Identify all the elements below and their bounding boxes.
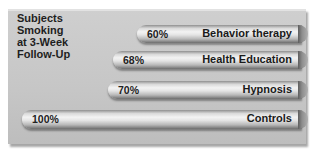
title-line: at 3-Week bbox=[17, 36, 97, 48]
bar-value: 100% bbox=[32, 113, 59, 125]
bar-category: Hypnosis bbox=[242, 83, 292, 95]
chart-title: Subjects Smoking at 3-Week Follow-Up bbox=[17, 12, 97, 60]
bar-category: Health Education bbox=[202, 53, 292, 65]
bar-behavior-therapy: 60% Behavior therapy bbox=[137, 25, 302, 43]
bar-end-cap bbox=[298, 25, 308, 43]
bar-end-cap bbox=[298, 51, 308, 69]
bar-value: 68% bbox=[123, 54, 144, 66]
bar-end-cap bbox=[298, 81, 308, 99]
bar-value: 60% bbox=[147, 28, 168, 40]
bar-category: Controls bbox=[247, 112, 292, 124]
title-line: Follow-Up bbox=[17, 48, 97, 60]
bar-end-cap bbox=[298, 110, 308, 129]
bar-controls: 100% Controls bbox=[22, 110, 302, 129]
title-line: Subjects bbox=[17, 12, 97, 24]
bar-hypnosis: 70% Hypnosis bbox=[108, 81, 302, 99]
bar-health-education: 68% Health Education bbox=[113, 51, 302, 69]
panel-top-edge bbox=[8, 9, 306, 11]
title-line: Smoking bbox=[17, 24, 97, 36]
bar-category: Behavior therapy bbox=[202, 27, 292, 39]
bar-value: 70% bbox=[118, 84, 139, 96]
